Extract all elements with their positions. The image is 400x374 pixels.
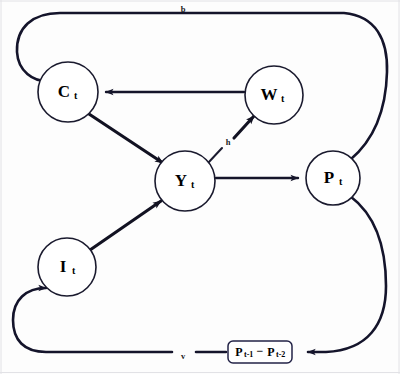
node-output[interactable]: Y t: [155, 151, 215, 211]
node-investment-circle[interactable]: [38, 238, 96, 296]
node-wage[interactable]: W t: [245, 66, 303, 124]
lagged-price-box-left-sub: t-1: [244, 350, 253, 359]
diagram-canvas: C t W t Y t P t I t P t-1 −: [0, 0, 400, 374]
node-consumption-label: C: [58, 82, 70, 101]
lagged-price-box-left-base: P: [235, 345, 242, 359]
node-investment[interactable]: I t: [38, 238, 96, 296]
lagged-price-box-right-sub: t-2: [276, 350, 285, 359]
edge-output-to-wage-stub: [208, 148, 222, 163]
edge-label-h: h: [226, 137, 231, 147]
lagged-price-box-right-base: P: [267, 345, 274, 359]
edge-label-v: v: [181, 351, 186, 361]
edge-price-to-lagged-box: [308, 196, 386, 352]
node-consumption[interactable]: C t: [38, 62, 98, 122]
edge-label-b: b: [181, 4, 186, 14]
node-output-label: Y: [175, 171, 187, 190]
node-investment-label: I: [60, 257, 67, 276]
edge-consumption-to-output: [89, 114, 163, 163]
flow-diagram-svg: C t W t Y t P t I t P t-1 −: [0, 0, 400, 374]
lagged-price-box[interactable]: P t-1 − P t-2: [228, 341, 292, 363]
edge-lagged-box-to-investment: [13, 288, 226, 352]
edge-output-to-wage: [234, 116, 254, 138]
node-price[interactable]: P t: [306, 151, 360, 205]
node-price-label: P: [324, 168, 334, 187]
node-wage-label: W: [261, 85, 278, 104]
edge-investment-to-output: [90, 201, 161, 250]
lagged-price-box-operator: −: [257, 344, 264, 358]
